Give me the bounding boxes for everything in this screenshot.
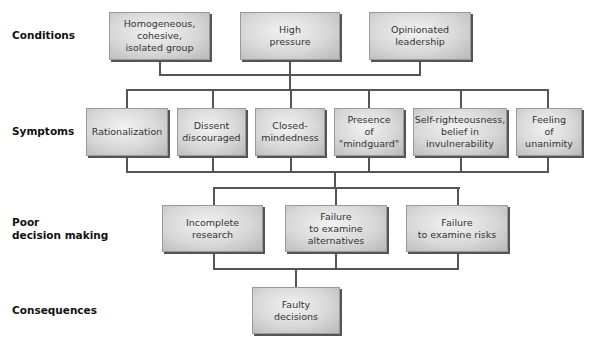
connector — [547, 89, 549, 108]
poor-decision-box: Failure to examine risks — [406, 205, 508, 252]
symptom-text: Closed- mindedness — [261, 120, 319, 144]
connector — [457, 187, 459, 205]
connector — [460, 89, 462, 108]
symptom-text: Dissent discouraged — [182, 120, 240, 144]
connector — [213, 187, 215, 205]
row-label-conditions: Conditions — [12, 29, 75, 42]
consequence-text: Faulty decisions — [274, 299, 318, 323]
poor-decision-text: Failure to examine risks — [418, 217, 496, 241]
condition-box: Homogeneous, cohesive, isolated group — [109, 12, 210, 60]
condition-text: High pressure — [269, 24, 310, 48]
symptom-box: Closed- mindedness — [255, 108, 325, 156]
row-label-poor-decision-making: Poor decision making — [12, 216, 108, 242]
connector — [126, 89, 128, 108]
symptom-box: Dissent discouraged — [177, 108, 246, 156]
connector — [126, 89, 548, 91]
poor-decision-box: Failure to examine alternatives — [285, 205, 387, 252]
symptom-text: Self-righteousness, belief in invulnerab… — [415, 114, 506, 150]
poor-decision-text: Failure to examine alternatives — [308, 211, 364, 247]
connector — [368, 89, 370, 108]
symptom-box: Self-righteousness, belief in invulnerab… — [413, 108, 507, 156]
connector — [126, 171, 549, 173]
connector — [212, 89, 214, 108]
symptom-text: Rationalization — [92, 126, 163, 138]
condition-box: Opinionated leadership — [369, 12, 471, 60]
row-label-symptoms: Symptoms — [12, 125, 74, 138]
row-label-consequences: Consequences — [12, 304, 97, 317]
condition-box: High pressure — [240, 12, 340, 60]
connector — [213, 268, 459, 270]
connector — [290, 89, 292, 108]
symptom-text: Presence of "mindguard" — [339, 114, 399, 150]
poor-decision-text: Incomplete research — [186, 217, 239, 241]
connector — [295, 268, 297, 287]
condition-text: Opinionated leadership — [391, 24, 449, 48]
connector — [159, 74, 421, 76]
symptom-box: Presence of "mindguard" — [334, 108, 404, 156]
symptom-box: Rationalization — [86, 108, 168, 156]
consequence-box: Faulty decisions — [252, 287, 340, 334]
poor-decision-box: Incomplete research — [162, 205, 263, 252]
symptom-text: Feeling of unanimity — [525, 114, 573, 150]
connector — [335, 187, 337, 205]
condition-text: Homogeneous, cohesive, isolated group — [124, 18, 196, 54]
symptom-box: Feeling of unanimity — [516, 108, 582, 156]
